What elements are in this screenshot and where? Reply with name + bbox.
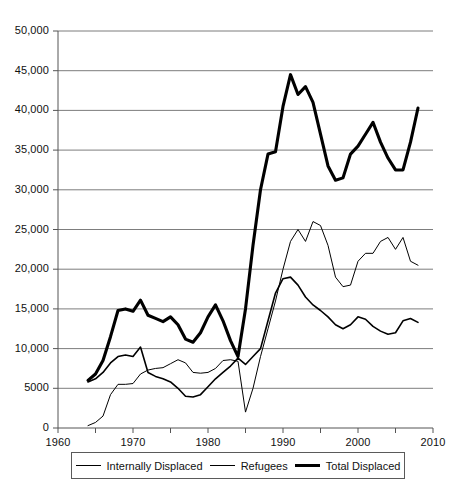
legend-line-icon-refugees [210,465,235,467]
legend-label-total-displaced: Total Displaced [326,460,401,472]
y-axis-label-35000: 35,000 [0,143,49,155]
legend-line-icon-total-displaced [295,464,320,467]
y-axis-label-30000: 30,000 [0,183,49,195]
x-axis-label-1980: 1980 [184,436,232,448]
series-line-refugees [88,277,418,397]
y-axis-label-50000: 50,000 [0,24,49,36]
y-axis-label-45000: 45,000 [0,64,49,76]
data-series-group [88,75,418,426]
x-axis-label-1990: 1990 [259,436,307,448]
legend-item-total-displaced: Total Displaced [295,460,401,472]
y-axis-label-20000: 20,000 [0,262,49,274]
y-tick-marks [53,31,58,428]
y-axis-label-40000: 40,000 [0,103,49,115]
series-line-total-displaced [88,75,418,381]
legend-item-internally-displaced: Internally Displaced [76,460,203,472]
x-tick-marks [58,428,433,433]
legend-label-refugees: Refugees [241,460,288,472]
y-axis-label-10000: 10,000 [0,342,49,354]
gridlines-group [58,31,433,388]
y-axis-label-15000: 15,000 [0,302,49,314]
y-axis-label-5000: 5000 [0,381,49,393]
y-axis-label-25000: 25,000 [0,223,49,235]
x-axis-label-2010: 2010 [409,436,450,448]
x-axis-label-1960: 1960 [34,436,82,448]
legend-line-icon-internally-displaced [76,465,101,466]
legend-label-internally-displaced: Internally Displaced [107,460,203,472]
chart-legend: Internally Displaced Refugees Total Disp… [71,452,405,479]
y-axis-label-0: 0 [0,421,49,433]
x-axis-label-1970: 1970 [109,436,157,448]
legend-item-refugees: Refugees [210,460,288,472]
x-axis-label-2000: 2000 [334,436,382,448]
